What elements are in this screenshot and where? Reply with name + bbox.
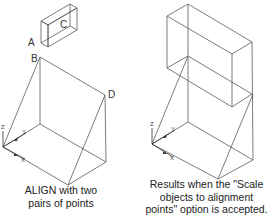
point-label-b: B <box>31 53 38 64</box>
z-axis-label: Z <box>150 121 154 127</box>
y-axis-label: Y <box>22 129 26 135</box>
right-scaled-box <box>167 4 252 107</box>
right-caption-line-1: Results when the "Scale <box>140 178 273 191</box>
right-caption-line-3: points" option is accepted. <box>140 203 273 216</box>
left-caption-line-1: ALIGN with two <box>0 184 122 197</box>
x-axis-label: X <box>170 155 174 161</box>
point-label-d: D <box>108 89 115 100</box>
left-wedge <box>3 57 106 185</box>
x-axis-label: X <box>21 157 25 163</box>
y-axis-label: Y <box>171 126 175 132</box>
left-caption: ALIGN with two pairs of points <box>0 184 122 209</box>
ucs-icon-right: Z Y X <box>150 121 175 161</box>
left-caption-line-2: pairs of points <box>0 197 122 210</box>
right-caption: Results when the "Scale objects to align… <box>140 178 273 216</box>
z-axis-label: Z <box>1 124 5 130</box>
right-caption-line-2: objects to alignment <box>140 191 273 204</box>
point-label-c: C <box>60 19 67 30</box>
point-label-a: A <box>28 37 35 48</box>
left-small-box <box>41 4 77 47</box>
